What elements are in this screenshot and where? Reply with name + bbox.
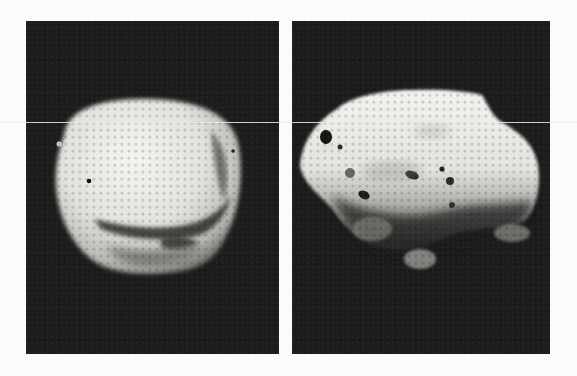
photo-panel-right [292,21,550,354]
moon-image-left [26,21,279,354]
photo-panel-left [26,21,279,354]
scan-line-artifact [0,122,577,123]
moon-image-right [292,21,550,354]
